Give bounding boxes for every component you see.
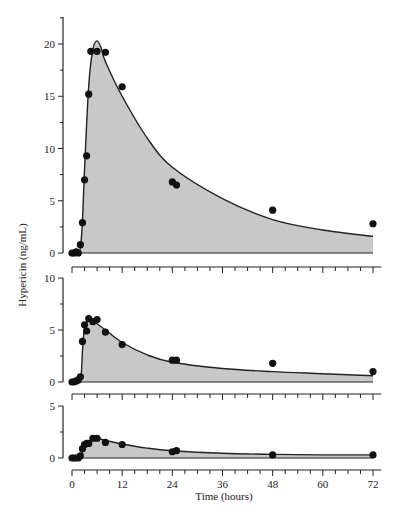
- x-tick-label: 60: [317, 478, 329, 490]
- data-point: [102, 328, 109, 335]
- y-tick-label: 20: [44, 38, 56, 50]
- pharmacokinetic-chart: 051015200510050122436486072 Hypericin (n…: [0, 0, 404, 523]
- x-tick-label: 12: [117, 478, 128, 490]
- data-point: [93, 316, 100, 323]
- data-point: [102, 439, 109, 446]
- data-point: [119, 441, 126, 448]
- data-point: [83, 152, 90, 159]
- data-point: [81, 321, 88, 328]
- y-tick-label: 5: [50, 324, 56, 336]
- y-axis-title: Hypericin (ng/mL): [16, 223, 29, 307]
- x-tick-label: 48: [267, 478, 279, 490]
- data-point: [369, 451, 376, 458]
- data-point: [83, 327, 90, 334]
- data-point: [119, 83, 126, 90]
- y-tick-label: 15: [44, 90, 56, 102]
- data-point: [79, 338, 86, 345]
- data-point: [93, 435, 100, 442]
- x-tick-label: 24: [167, 478, 179, 490]
- y-tick-label: 10: [44, 272, 56, 284]
- data-point: [269, 207, 276, 214]
- data-point: [93, 48, 100, 55]
- data-point: [77, 452, 84, 459]
- data-point: [85, 91, 92, 98]
- y-tick-label: 10: [44, 143, 56, 155]
- data-point: [102, 49, 109, 56]
- data-point: [173, 357, 180, 364]
- x-axis-title: Time (hours): [195, 490, 253, 503]
- data-point: [87, 48, 94, 55]
- data-point: [173, 447, 180, 454]
- data-point: [173, 181, 180, 188]
- data-point: [75, 249, 82, 256]
- x-tick-label: 0: [69, 478, 75, 490]
- y-tick-label: 0: [50, 376, 56, 388]
- data-point: [269, 360, 276, 367]
- data-point: [369, 368, 376, 375]
- panel-middle: 0510: [44, 272, 381, 400]
- y-tick-label: 5: [50, 195, 56, 207]
- data-point: [269, 451, 276, 458]
- area-fill: [72, 319, 373, 382]
- data-point: [77, 373, 84, 380]
- panel-top: 05101520: [44, 17, 381, 273]
- y-tick-label: 0: [50, 247, 56, 259]
- data-point: [77, 241, 84, 248]
- x-tick-label: 36: [217, 478, 229, 490]
- chart-panels: 051015200510050122436486072: [44, 17, 381, 490]
- data-point: [81, 176, 88, 183]
- data-point: [79, 219, 86, 226]
- data-point: [369, 220, 376, 227]
- y-tick-label: 0: [50, 452, 56, 464]
- data-point: [119, 341, 126, 348]
- x-tick-label: 72: [368, 478, 379, 490]
- panel-bottom: 05: [50, 400, 382, 476]
- area-fill: [72, 41, 373, 254]
- y-tick-label: 5: [50, 400, 56, 412]
